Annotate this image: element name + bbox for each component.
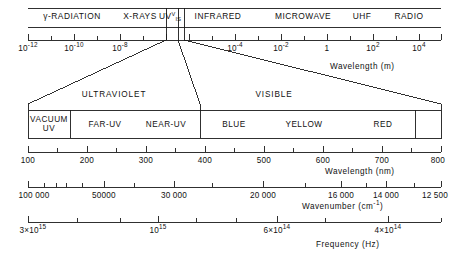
- tick-wavelength-m-7: 104: [412, 44, 425, 53]
- group-label-visible: VISIBLE: [255, 90, 292, 99]
- axis-title-wavelength-nm: Wavelength (nm): [325, 167, 395, 176]
- tick-wavelength-m-1: 10-10: [64, 44, 83, 53]
- topband-label-uv-vis: UVVIS: [159, 11, 181, 22]
- axis-title-wavelength-m: Wavelength (m): [330, 62, 394, 71]
- band-label-near-uv: NEAR-UV: [146, 120, 186, 129]
- tick-wavelength-m-2: 10-8: [112, 44, 128, 53]
- tick-frequency-3: 4×1014: [375, 226, 402, 235]
- topband-label-gamma-radiation: γ-RADIATION: [43, 11, 100, 21]
- tick-wavelength-nm-6: 700: [375, 156, 389, 165]
- tick-wavenumber-1: 50000: [92, 191, 116, 200]
- axis-title-frequency: Frequency (Hz): [316, 240, 379, 249]
- tick-wavenumber-0: 100 000: [19, 191, 50, 200]
- band-label-blue: BLUE: [222, 120, 245, 129]
- tick-wavelength-nm-2: 300: [139, 156, 153, 165]
- tick-wavelength-m-0: 10-12: [18, 44, 37, 53]
- tick-frequency-1: 1015: [149, 226, 166, 235]
- tick-frequency-0: 3×1015: [20, 226, 47, 235]
- topband-label-x-rays: X-RAYS: [123, 11, 157, 21]
- tick-wavelength-m-5: 1: [325, 44, 330, 53]
- topband-label-uhf: UHF: [353, 11, 372, 21]
- tick-wavelength-nm-5: 600: [316, 156, 330, 165]
- tick-wavelength-m-3: 10-4: [227, 44, 243, 53]
- tick-wavelength-m-4: 10-2: [273, 44, 289, 53]
- tick-wavelength-nm-3: 400: [198, 156, 212, 165]
- topband-label-radio: RADIO: [394, 11, 423, 21]
- band-label-vacuum-uv: VACUUM UV: [30, 115, 68, 133]
- tick-wavenumber-2: 30 000: [161, 191, 187, 200]
- tick-wavelength-nm-7: 800: [431, 156, 445, 165]
- tick-wavenumber-4: 16 000: [328, 191, 354, 200]
- figure-linework: [0, 0, 464, 261]
- tick-wavelength-nm-0: 100: [21, 156, 35, 165]
- tick-wavelength-nm-4: 500: [257, 156, 271, 165]
- tick-wavenumber-6: 12 500: [422, 191, 448, 200]
- tick-frequency-2: 6×1014: [264, 226, 291, 235]
- tick-wavelength-nm-1: 200: [80, 156, 94, 165]
- topband-label-microwave: MICROWAVE: [275, 11, 331, 21]
- group-label-ultraviolet: ULTRAVIOLET: [82, 90, 147, 99]
- band-label-far-uv: FAR-UV: [88, 120, 121, 129]
- axis-title-wavenumber: Wavenumber (cm-1): [302, 202, 383, 211]
- tick-wavelength-m-6: 102: [366, 44, 379, 53]
- topband-label-vis: VIS: [171, 14, 181, 20]
- expansion-line-mid: [178, 40, 200, 104]
- topband-label-infrared: INFRARED: [195, 11, 242, 21]
- topband-label-uv: UV: [159, 11, 171, 21]
- electromagnetic-spectrum-figure: γ-RADIATION X-RAYS UVVIS INFRARED MICROW…: [0, 0, 464, 261]
- band-label-yellow: YELLOW: [285, 120, 322, 129]
- tick-wavenumber-3: 20 000: [250, 191, 276, 200]
- expansion-line-right: [184, 40, 441, 104]
- band-label-red: RED: [374, 120, 393, 129]
